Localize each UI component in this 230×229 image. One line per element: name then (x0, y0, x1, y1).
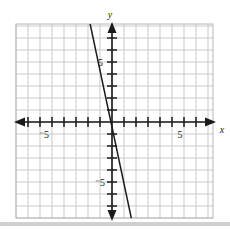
coordinate-plane-svg: ⁻5 5 5 ⁻5 y x (0, 0, 230, 229)
footer-band (0, 222, 230, 226)
y-tick-label-positive-five: 5 (98, 57, 103, 68)
x-axis-label: x (219, 124, 225, 135)
y-tick-label-negative-five: ⁻5 (95, 177, 105, 188)
x-tick-label-negative-five: ⁻5 (39, 129, 49, 140)
graph-figure: ⁻5 5 5 ⁻5 y x (0, 0, 230, 229)
x-tick-label-positive-five: 5 (178, 129, 183, 140)
y-axis-label: y (107, 9, 113, 20)
